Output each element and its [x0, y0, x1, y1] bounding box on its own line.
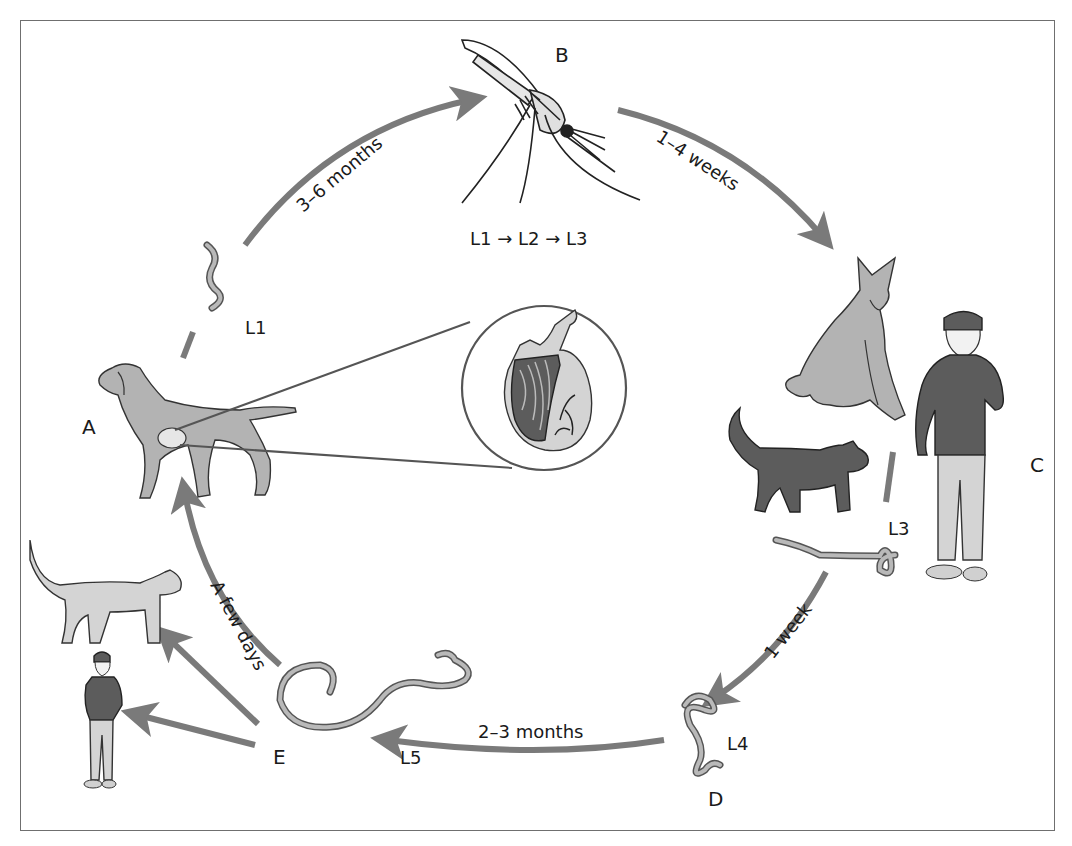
l1-larva-illustration — [207, 245, 220, 308]
duration-d-to-e: 2–3 months — [478, 721, 583, 742]
stage-label-l4: L4 — [727, 733, 748, 754]
dark-cat-illustration — [729, 408, 868, 512]
zoom-line-bottom — [180, 445, 512, 468]
node-label-c: C — [1030, 453, 1044, 477]
arrow-l1-to-a-dash — [183, 332, 193, 358]
node-label-b: B — [555, 43, 569, 67]
dog-definitive-host-illustration — [99, 364, 296, 498]
light-cat-illustration — [30, 540, 181, 643]
man-illustration — [916, 312, 1004, 582]
sitting-dog-illustration — [786, 258, 905, 420]
zoom-line-top — [175, 322, 470, 430]
l4-larva-illustration — [685, 696, 720, 773]
arrow-e-to-human — [138, 715, 255, 745]
duration-a-to-b: 3–6 months — [292, 132, 386, 216]
node-label-e: E — [273, 745, 286, 769]
stage-label-mosquito-dev: L1 → L2 → L3 — [470, 228, 588, 249]
mosquito-illustration — [462, 40, 640, 203]
stage-label-l3: L3 — [888, 518, 909, 539]
arrow-a-to-b — [245, 100, 470, 245]
life-cycle-diagram: 3–6 months 1–4 weeks 1 week 2–3 months A… — [0, 0, 1072, 846]
l5-larva-illustration — [280, 653, 468, 727]
node-label-a: A — [82, 415, 96, 439]
duration-e-to-a: A few days — [206, 577, 271, 674]
node-label-d: D — [708, 787, 723, 811]
arrow-e-to-a — [185, 494, 280, 665]
stage-label-l5: L5 — [400, 747, 421, 768]
heart-inset-illustration — [462, 306, 626, 470]
duration-c-to-d: 1 week — [760, 598, 817, 662]
stage-label-l1: L1 — [245, 317, 266, 338]
small-man-illustration — [84, 652, 122, 788]
l3-larva-illustration — [776, 540, 895, 573]
arrow-c-to-d-dash — [886, 452, 893, 502]
